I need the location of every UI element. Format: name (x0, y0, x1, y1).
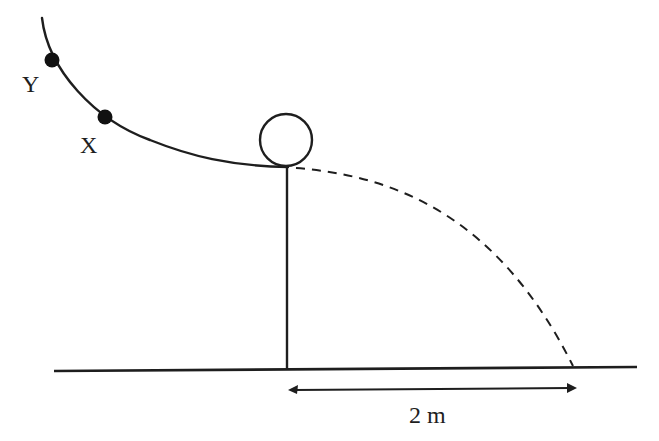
physics-diagram: Y X 2 m (0, 0, 659, 441)
point-y-marker (45, 53, 60, 68)
ground-line (54, 367, 637, 371)
point-x-marker (98, 110, 113, 125)
curved-track (42, 18, 288, 167)
point-y-label: Y (22, 71, 39, 97)
ball (260, 114, 312, 166)
distance-label: 2 m (409, 402, 446, 428)
point-x-label: X (80, 132, 97, 158)
distance-arrow (288, 383, 577, 394)
projectile-path (296, 168, 573, 366)
